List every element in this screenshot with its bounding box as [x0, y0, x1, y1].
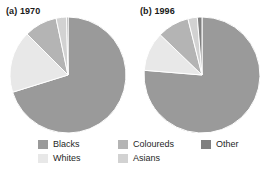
legend-item-blacks: Blacks — [38, 139, 80, 149]
figure-two-pie-charts: (a) 1970 (b) 1996 Blacks Whites Coloured… — [0, 0, 275, 171]
legend-item-asians: Asians — [118, 153, 160, 163]
legend-swatch-other — [201, 140, 211, 149]
legend-item-other: Other — [201, 139, 239, 149]
legend-label-other: Other — [216, 139, 239, 149]
pie-chart-a — [6, 16, 130, 134]
legend-item-whites: Whites — [38, 153, 81, 163]
legend-label-blacks: Blacks — [53, 139, 80, 149]
legend-swatch-asians — [118, 154, 128, 163]
legend-swatch-coloureds — [118, 140, 128, 149]
legend: Blacks Whites Coloureds Asians Other — [38, 139, 270, 169]
pie-chart-b-svg — [140, 16, 264, 134]
pie-chart-b — [140, 16, 264, 134]
legend-item-coloureds: Coloureds — [118, 139, 174, 149]
pie-chart-a-svg — [6, 16, 130, 134]
legend-label-asians: Asians — [133, 153, 160, 163]
legend-swatch-blacks — [38, 140, 48, 149]
legend-swatch-whites — [38, 154, 48, 163]
legend-label-coloureds: Coloureds — [133, 139, 174, 149]
chart-b-title: (b) 1996 — [140, 6, 175, 16]
legend-label-whites: Whites — [53, 153, 81, 163]
chart-a-title: (a) 1970 — [6, 6, 40, 16]
